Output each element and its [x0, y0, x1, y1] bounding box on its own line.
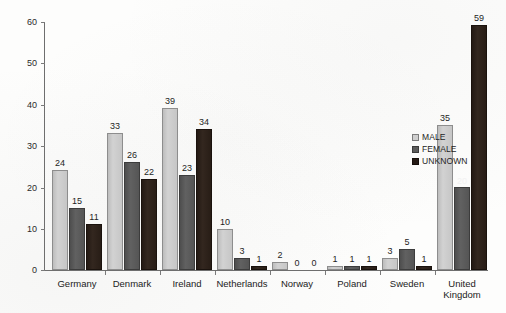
y-tick-mark-40: [41, 105, 45, 106]
x-tick-mark-7: [435, 271, 436, 275]
bar-value-germany-male: 24: [46, 158, 74, 168]
bar-value-united-kingdom-unknown: 59: [465, 13, 493, 23]
y-tick-label-60: 60: [17, 18, 37, 27]
legend-swatch-unknown-icon: [412, 158, 419, 165]
y-tick-label-30: 30: [17, 142, 37, 151]
x-tick-mark-3: [215, 271, 216, 275]
x-tick-label-united-kingdom: United Kingdom: [427, 278, 497, 300]
bar-value-ireland-unknown: 34: [190, 117, 218, 127]
y-tick-label-50: 50: [17, 59, 37, 68]
y-tick-label-20: 20: [17, 184, 37, 193]
y-tick-mark-20: [41, 188, 45, 189]
bar-germany-male: [52, 170, 68, 270]
bar-poland-unknown: [361, 266, 377, 270]
legend-label-unknown: UNKNOWN: [422, 156, 468, 166]
bar-ireland-female: [179, 175, 195, 270]
bar-ireland-male: [162, 108, 178, 270]
chart-screenshot: 60 50 40 30 20 10 0 24 15 11 Germany 33 …: [0, 0, 506, 313]
y-tick-mark-0: [41, 270, 45, 271]
x-tick-mark-2: [160, 271, 161, 275]
bar-value-germany-unknown: 11: [80, 212, 108, 222]
bar-ireland-unknown: [196, 129, 212, 270]
legend-swatch-male-icon: [412, 134, 419, 141]
bar-sweden-unknown: [416, 266, 432, 270]
bar-value-denmark-unknown: 22: [135, 167, 163, 177]
y-tick-mark-60: [41, 22, 45, 23]
bar-sweden-male: [382, 258, 398, 270]
y-tick-mark-30: [41, 146, 45, 147]
y-tick-label-10: 10: [17, 225, 37, 234]
bar-value-ireland-male: 39: [156, 96, 184, 106]
bar-denmark-female: [124, 162, 140, 270]
legend-item-female: FEMALE: [412, 143, 468, 155]
x-tick-mark-4: [270, 271, 271, 275]
bar-united-kingdom-unknown: [471, 25, 487, 270]
x-axis-line: [44, 270, 488, 271]
bar-poland-male: [327, 266, 343, 270]
y-tick-mark-10: [41, 229, 45, 230]
legend-label-male: MALE: [422, 132, 446, 142]
bar-germany-unknown: [86, 224, 102, 270]
x-tick-mark-1: [105, 271, 106, 275]
y-tick-mark-50: [41, 63, 45, 64]
x-tick-mark-6: [380, 271, 381, 275]
bar-value-germany-female: 15: [63, 196, 91, 206]
bar-value-united-kingdom-male: 35: [431, 113, 459, 123]
bar-value-sweden-female: 5: [393, 237, 421, 247]
chart-legend: MALE FEMALE UNKNOWN: [412, 131, 468, 167]
bar-denmark-unknown: [141, 179, 157, 270]
legend-swatch-female-icon: [412, 146, 419, 153]
y-tick-label-40: 40: [17, 101, 37, 110]
bar-united-kingdom-female: [454, 187, 470, 270]
bar-poland-female: [344, 266, 360, 270]
legend-item-unknown: UNKNOWN: [412, 155, 468, 167]
bar-netherlands-unknown: [251, 266, 267, 270]
x-tick-mark-5: [325, 271, 326, 275]
y-tick-label-0: 0: [17, 266, 37, 275]
bar-value-denmark-male: 33: [101, 121, 129, 131]
bar-value-denmark-female: 26: [118, 150, 146, 160]
legend-item-male: MALE: [412, 131, 468, 143]
bar-value-sweden-unknown: 1: [410, 254, 438, 264]
legend-label-female: FEMALE: [422, 144, 457, 154]
bar-value-netherlands-male: 10: [211, 217, 239, 227]
